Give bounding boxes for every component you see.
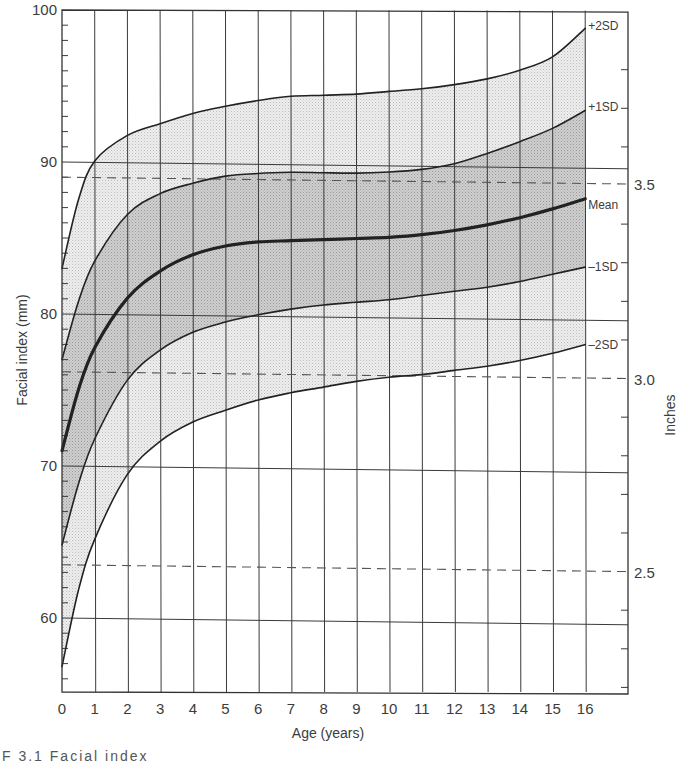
secondary-y-axis-title: Inches [662,394,678,435]
inch-line-2.5 [62,565,628,572]
inch-tick-label: 3.0 [634,371,655,388]
x-tick-label: 5 [221,700,229,717]
y-tick-label: 80 [40,305,57,322]
vertical-gridline [585,11,586,692]
sd-label: +2SD [588,19,619,33]
inch-tick-label: 3.5 [634,176,655,193]
x-tick-label: 9 [352,700,360,717]
sd-label: Mean [588,198,618,212]
vertical-gridline [160,10,161,692]
x-tick-label: 6 [254,700,262,717]
vertical-gridline [127,10,128,692]
chart-canvas: 100908070600123456789101112131415163.53.… [0,0,689,765]
x-tick-label: 15 [544,700,561,717]
x-tick-label: 12 [446,700,463,717]
x-tick-label: 13 [479,700,496,717]
horizontal-gridline [62,618,628,625]
x-tick-label: 14 [511,700,528,717]
sd-label: –2SD [588,338,618,352]
y-tick-label: 100 [32,1,57,18]
figure-caption: F 3.1 Facial index [2,748,149,764]
x-tick-label: 10 [381,700,398,717]
x-tick-label: 1 [91,700,99,717]
y-tick-label: 70 [40,457,57,474]
horizontal-gridline [62,466,628,473]
x-tick-label: 0 [58,700,66,717]
y-tick-label: 90 [40,153,57,170]
x-tick-label: 4 [189,700,197,717]
x-tick-label: 11 [414,700,430,717]
x-tick-label: 3 [156,700,164,717]
sd-label: –1SD [588,260,618,274]
y-axis-title: Facial index (mm) [14,294,30,405]
x-tick-label: 7 [287,700,295,717]
growth-chart: 100908070600123456789101112131415163.53.… [0,0,689,765]
sd-label: +1SD [588,100,619,114]
x-tick-label: 2 [123,700,131,717]
inch-tick-label: 2.5 [634,564,655,581]
vertical-gridline [95,10,96,692]
x-tick-label: 16 [577,700,594,717]
x-axis-title: Age (years) [292,725,364,741]
y-tick-label: 60 [40,609,57,626]
x-tick-label: 8 [319,700,327,717]
